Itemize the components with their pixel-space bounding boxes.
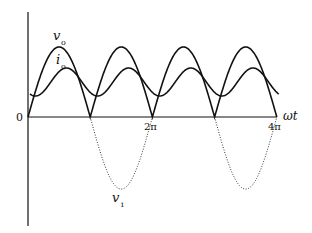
vi-label: v (112, 190, 120, 205)
vo-label: v (53, 28, 61, 43)
rectifier-waveform-diagram: 0 2π 4π ωt v o i o v i (0, 0, 312, 233)
vo-sub-label: o (61, 38, 66, 47)
io-sub-label: o (61, 62, 66, 71)
x-axis-label: ωt (283, 109, 298, 123)
origin-label: 0 (16, 111, 23, 124)
tick-4pi-label: 4π (268, 121, 281, 132)
tick-2pi-label: 2π (144, 121, 157, 132)
vo-curve (28, 47, 277, 117)
io-label: i (56, 52, 60, 67)
vi-sub-label: i (121, 200, 124, 209)
io-curve (30, 68, 279, 96)
